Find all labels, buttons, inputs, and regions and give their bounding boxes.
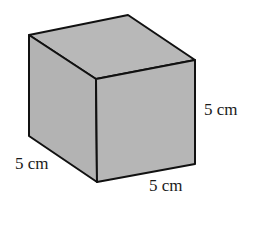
- depth-label: 5 cm: [15, 155, 49, 172]
- height-label: 5 cm: [204, 101, 238, 118]
- width-label: 5 cm: [149, 177, 183, 194]
- cube-front-face: [96, 60, 195, 182]
